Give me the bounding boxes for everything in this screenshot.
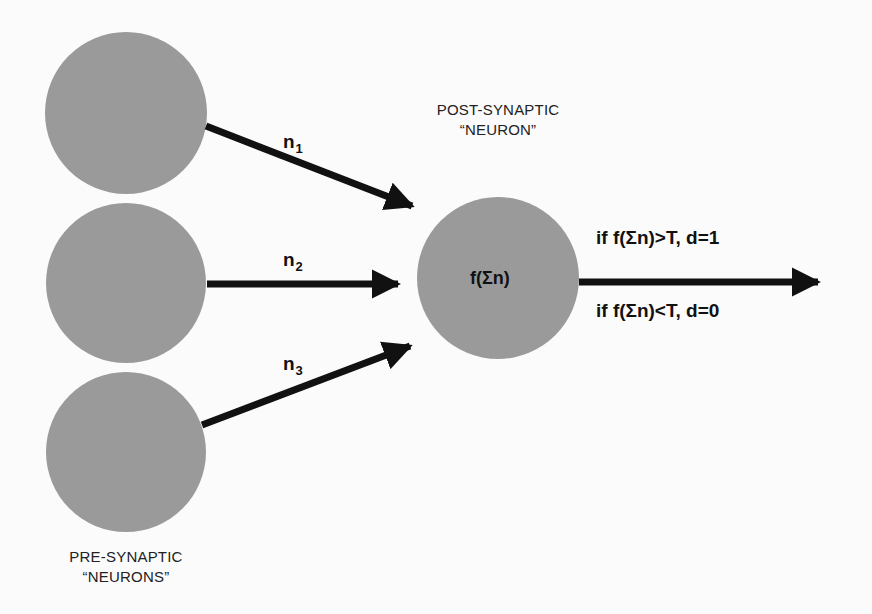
input-label-n2: n2 <box>283 249 303 271</box>
input-arrow-1 <box>206 126 412 206</box>
neuron-diagram-canvas <box>0 0 872 614</box>
input-arrow-3 <box>202 346 410 425</box>
output-rule-fire: if f(Σn)>T, d=1 <box>596 227 719 249</box>
pre-synaptic-label-line1: PRE-SYNAPTIC <box>36 547 216 567</box>
post-synaptic-label-line1: POST-SYNAPTIC <box>408 100 588 120</box>
post-neuron-function: f(Σn) <box>470 268 510 289</box>
pre-synaptic-neuron-2 <box>46 203 206 363</box>
pre-synaptic-neuron-1 <box>45 32 207 194</box>
pre-synaptic-label: PRE-SYNAPTIC “NEURONS” <box>36 547 216 587</box>
pre-synaptic-label-line2: “NEURONS” <box>36 567 216 587</box>
post-synaptic-label: POST-SYNAPTIC “NEURON” <box>408 100 588 140</box>
pre-synaptic-neuron-3 <box>46 372 206 532</box>
input-label-n1: n1 <box>283 131 303 153</box>
output-rule-no-fire: if f(Σn)<T, d=0 <box>596 300 719 322</box>
post-synaptic-label-line2: “NEURON” <box>408 120 588 140</box>
input-label-n3: n3 <box>283 353 303 375</box>
